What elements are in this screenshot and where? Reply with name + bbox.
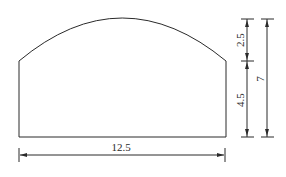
section-outline — [19, 18, 226, 137]
total-height-dimension: 7 — [254, 19, 274, 137]
width-label: 12.5 — [111, 141, 131, 153]
wall-height-label: 4.5 — [234, 93, 246, 107]
partial-height-dimensions: 2.5 4.5 — [234, 19, 254, 137]
width-dimension: 12.5 — [19, 141, 225, 162]
cross-section-diagram: 12.5 2.5 4.5 7 — [0, 0, 286, 177]
total-height-label: 7 — [254, 76, 266, 82]
arch-height-label: 2.5 — [234, 33, 246, 47]
